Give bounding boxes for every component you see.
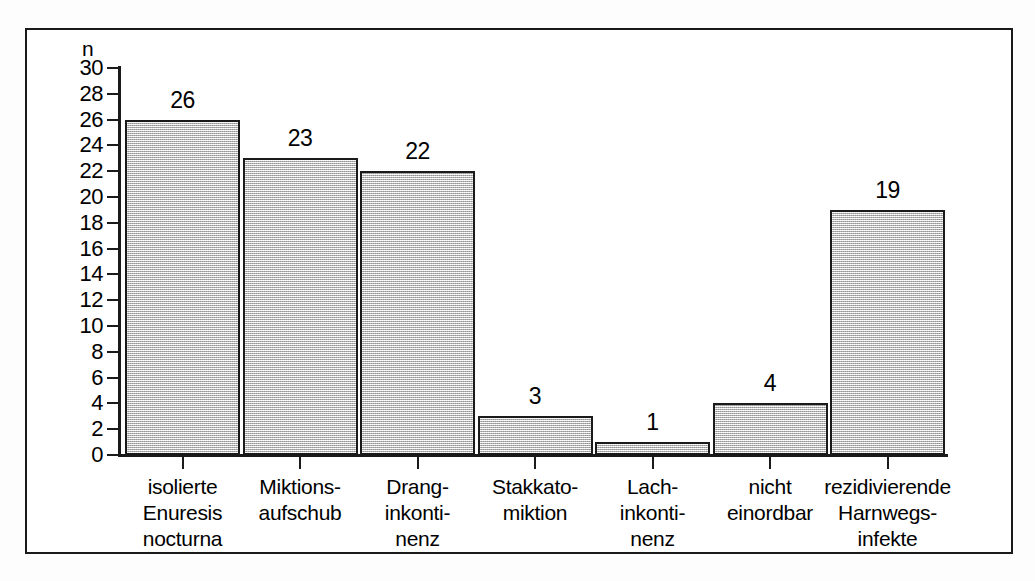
y-axis-tick-label: 4 xyxy=(58,392,103,414)
category-label-line: infekte xyxy=(813,526,963,552)
category-label-line: nenz xyxy=(578,526,728,552)
category-label: rezidivierendeHarnwegs-infekte xyxy=(813,474,963,552)
bar-value-label: 26 xyxy=(143,89,223,112)
bar-value-label: 23 xyxy=(260,127,340,150)
bar-value-label: 22 xyxy=(378,140,458,163)
bar xyxy=(243,158,358,455)
y-axis-tick-label: 0 xyxy=(58,444,103,466)
y-axis-tick-label-text: 30 xyxy=(63,57,103,79)
y-axis-tick-label: 18 xyxy=(58,212,103,234)
y-axis-tick-label: 20 xyxy=(58,186,103,208)
bar-value-label: 19 xyxy=(848,179,928,202)
y-axis-tick-label: 10 xyxy=(58,315,103,337)
bar xyxy=(478,416,593,455)
y-axis-tick-label-text: 10 xyxy=(63,315,103,337)
y-axis-tick xyxy=(107,351,119,353)
y-axis-tick-label: 8 xyxy=(58,341,103,363)
y-axis-tick xyxy=(107,248,119,250)
y-axis-tick xyxy=(107,454,119,456)
category-label-line: nocturna xyxy=(108,526,258,552)
y-axis-tick-label: 22 xyxy=(58,160,103,182)
y-axis-tick xyxy=(107,299,119,301)
y-axis-tick xyxy=(107,325,119,327)
y-axis-tick xyxy=(107,93,119,95)
bar xyxy=(713,403,828,455)
x-axis-tick xyxy=(534,456,536,469)
y-axis-tick-label-text: 2 xyxy=(63,418,103,440)
bar-chart: n 024681012141618202224262830 2623223141… xyxy=(0,0,1035,581)
y-axis-tick-label-text: 14 xyxy=(63,263,103,285)
y-axis-tick-label: 14 xyxy=(58,263,103,285)
y-axis-tick-label: 12 xyxy=(58,289,103,311)
y-axis-tick-label-text: 0 xyxy=(63,444,103,466)
y-axis-tick-label: 2 xyxy=(58,418,103,440)
y-axis-tick-label-text: 22 xyxy=(63,160,103,182)
y-axis-tick xyxy=(107,196,119,198)
y-axis-tick-label-text: 18 xyxy=(63,212,103,234)
category-label-line: Harnwegs- xyxy=(813,500,963,526)
x-axis-tick xyxy=(417,456,419,469)
y-axis-tick xyxy=(107,170,119,172)
y-axis-tick-label: 26 xyxy=(58,109,103,131)
bar-value-label: 3 xyxy=(495,385,575,408)
y-axis-tick xyxy=(107,222,119,224)
bar xyxy=(125,120,240,455)
x-axis-tick xyxy=(652,456,654,469)
y-axis-tick xyxy=(107,67,119,69)
x-axis-tick xyxy=(182,456,184,469)
y-axis-tick xyxy=(107,119,119,121)
y-axis-line xyxy=(118,66,121,457)
y-axis-tick xyxy=(107,402,119,404)
y-axis-tick-label-text: 4 xyxy=(63,392,103,414)
y-axis-tick-label-text: 16 xyxy=(63,238,103,260)
y-axis-tick-label-text: 20 xyxy=(63,186,103,208)
bar xyxy=(360,171,475,455)
x-axis-tick xyxy=(769,456,771,469)
bar xyxy=(830,210,945,455)
category-label-line: rezidivierende xyxy=(813,474,963,500)
figure-page: n 024681012141618202224262830 2623223141… xyxy=(0,0,1035,581)
y-axis-tick-label-text: 24 xyxy=(63,134,103,156)
bar-value-label: 4 xyxy=(730,372,810,395)
y-axis-tick-label: 24 xyxy=(58,134,103,156)
bar-value-label: 1 xyxy=(613,411,693,434)
y-axis-tick-label-text: 28 xyxy=(63,83,103,105)
y-axis-tick xyxy=(107,377,119,379)
x-axis-tick xyxy=(299,456,301,469)
y-axis-tick-label: 30 xyxy=(58,57,103,79)
category-label-line: nenz xyxy=(343,526,493,552)
y-axis-tick-label-text: 6 xyxy=(63,367,103,389)
y-axis-tick-label-text: 12 xyxy=(63,289,103,311)
y-axis-tick xyxy=(107,144,119,146)
y-axis-tick-label-text: 8 xyxy=(63,341,103,363)
y-axis-tick-label-text: 26 xyxy=(63,109,103,131)
y-axis-tick-label: 28 xyxy=(58,83,103,105)
y-axis-tick-label: 16 xyxy=(58,238,103,260)
bar xyxy=(595,442,710,455)
x-axis-tick xyxy=(887,456,889,469)
y-axis-tick-label: 6 xyxy=(58,367,103,389)
y-axis-tick xyxy=(107,273,119,275)
y-axis-tick xyxy=(107,428,119,430)
